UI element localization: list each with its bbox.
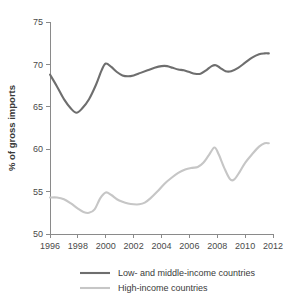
x-tick-label: 2012 <box>263 241 283 251</box>
y-tick-label: 65 <box>33 102 43 112</box>
x-tick-label: 2004 <box>151 241 171 251</box>
y-tick-label: 50 <box>33 229 43 239</box>
chart-legend: Low- and middle-income countriesHigh-inc… <box>80 268 256 293</box>
y-tick-label: 70 <box>33 60 43 70</box>
x-tick-label: 1998 <box>68 241 88 251</box>
line-chart: % of gross imports 505560657075 19961998… <box>0 0 292 302</box>
legend-label-0: Low- and middle-income countries <box>118 268 256 278</box>
y-tick-label: 75 <box>33 17 43 27</box>
series-line-1 <box>50 143 269 213</box>
x-tick-label: 1996 <box>40 241 60 251</box>
y-axis-title: % of gross imports <box>6 85 17 171</box>
y-axis-ticks: 505560657075 <box>33 17 50 239</box>
x-tick-label: 2008 <box>207 241 227 251</box>
legend-label-1: High-income countries <box>118 283 208 293</box>
x-tick-label: 2010 <box>235 241 255 251</box>
series-lines <box>50 53 269 213</box>
x-tick-label: 2002 <box>124 241 144 251</box>
y-tick-label: 60 <box>33 144 43 154</box>
x-tick-label: 2000 <box>96 241 116 251</box>
y-tick-label: 55 <box>33 187 43 197</box>
chart-container: % of gross imports 505560657075 19961998… <box>0 0 292 302</box>
y-axis-title-group: % of gross imports <box>6 85 17 171</box>
x-tick-label: 2006 <box>179 241 199 251</box>
series-line-0 <box>50 53 269 112</box>
x-axis-ticks: 199619982000200220042006200820102012 <box>40 234 283 251</box>
